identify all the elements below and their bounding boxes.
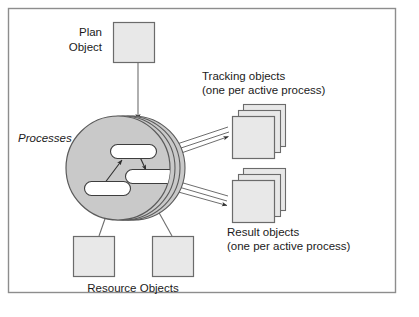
plan-object-label-line1: Plan (79, 26, 102, 38)
plan-object-label-line2: Object (69, 41, 103, 53)
tracking-objects-stack (233, 105, 286, 159)
processes-disk-layer-1 (66, 116, 170, 220)
result-objects-stack (233, 169, 286, 223)
process-pill-top (111, 145, 157, 159)
process-pill-bottom-left (85, 182, 131, 196)
processes-disk (66, 116, 185, 220)
result-objects-label-line1: Result objects (227, 226, 299, 238)
result-object-front (233, 181, 275, 223)
tracking-objects-label-line2: (one per active process) (202, 84, 326, 96)
resource-object-box-right (153, 237, 194, 277)
plan-object-box (114, 23, 155, 63)
result-objects-label-line2: (one per active process) (227, 240, 351, 252)
resource-object-box-left (74, 237, 115, 277)
tracking-objects-label-line1: Tracking objects (202, 70, 286, 82)
tracking-object-front (233, 117, 275, 159)
diagram-figure: Plan Object (0, 0, 419, 317)
resource-objects-label: Resource Objects (87, 282, 179, 294)
processes-label: Processes (18, 132, 72, 144)
diagram-canvas: Plan Object (0, 0, 419, 317)
process-pill-middle-right (126, 170, 176, 184)
